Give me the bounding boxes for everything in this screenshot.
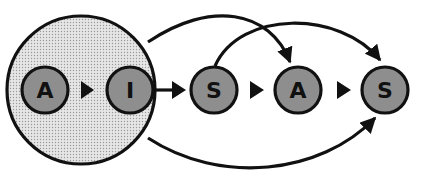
edge-s1-to-s2 [215, 23, 380, 66]
node-a2-label: A [289, 78, 306, 103]
node-s2: S [362, 67, 408, 113]
edge-group-to-s2-bottom [148, 118, 375, 168]
node-a2: A [275, 67, 321, 113]
node-s2-label: S [377, 78, 393, 103]
arrow-a2-to-s2 [337, 81, 351, 99]
arrow-group-to-s1 [172, 81, 186, 99]
arrow-s1-to-a2 [250, 81, 264, 99]
node-a1-label: A [36, 78, 53, 103]
node-a1: A [22, 67, 68, 113]
node-i-label: I [126, 78, 134, 103]
node-s1: S [191, 67, 237, 113]
node-s1-label: S [206, 78, 222, 103]
diagram: A I S A S [0, 0, 423, 179]
edge-group-to-a2 [148, 16, 290, 62]
node-i: I [107, 67, 153, 113]
